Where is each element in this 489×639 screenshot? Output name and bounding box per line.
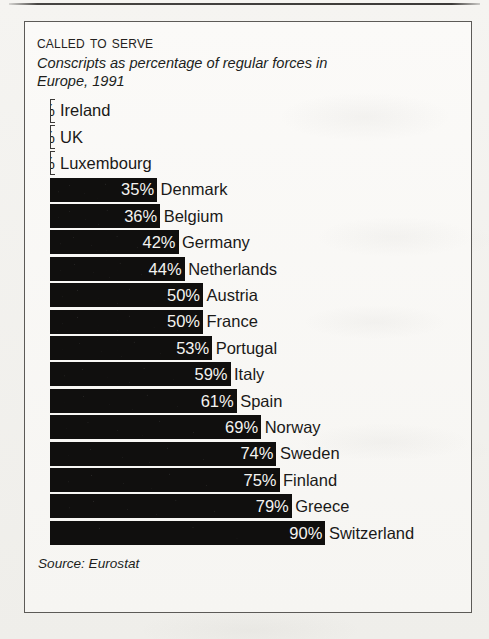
bar-value-label: 44% (149, 261, 185, 278)
bar-category-label: Norway (261, 419, 320, 436)
bar-category-label: Finland (280, 472, 338, 489)
bar-category-label: UK (55, 129, 83, 146)
bar-value-label: 0% (50, 129, 55, 146)
bar-category-label: Austria (203, 287, 258, 304)
bar-row: 79%Greece (50, 493, 471, 519)
bar-row: 42%Germany (50, 229, 471, 255)
chart-title: Called to Serve (37, 32, 471, 52)
bar-value-label: 59% (195, 366, 231, 383)
bar: 36% (50, 204, 160, 228)
bar-chart-plot: 0%Ireland0%UK0%Luxembourg35%Denmark36%Be… (50, 97, 471, 546)
bar-value-label: 35% (121, 181, 157, 198)
bar-row: 50%Austria (50, 282, 471, 308)
bar-category-label: Spain (237, 393, 283, 410)
bar-value-label: 69% (225, 419, 261, 436)
bar-row: 74%Sweden (50, 440, 471, 466)
bar-value-label: 50% (167, 287, 203, 304)
bar-category-label: Greece (292, 498, 350, 515)
bar-value-label: 0% (50, 155, 55, 172)
bar: 44% (50, 257, 185, 281)
bar-value-label: 42% (142, 234, 178, 251)
bar-row: 35%Denmark (50, 176, 471, 202)
chart-frame: Called to Serve Conscripts as percentage… (24, 21, 472, 613)
bar: 74% (50, 442, 276, 466)
bar: 0% (50, 151, 55, 175)
bar-row: 90%Switzerland (50, 520, 471, 546)
bar-value-label: 75% (243, 472, 279, 489)
bar-category-label: Netherlands (185, 261, 277, 278)
bar-row: 59%Italy (50, 361, 471, 387)
bar-category-label: Switzerland (325, 525, 414, 542)
bar: 0% (50, 99, 55, 123)
bar-row: 36%Belgium (50, 203, 471, 229)
chart-content: Called to Serve Conscripts as percentage… (25, 22, 471, 571)
bar-value-label: 50% (167, 313, 203, 330)
bar-row: 75%Finland (50, 467, 471, 493)
bar: 69% (50, 415, 261, 439)
bar-category-label: Belgium (160, 208, 223, 225)
bar: 75% (50, 468, 280, 492)
bar-category-label: Germany (179, 234, 250, 251)
bar-value-label: 53% (176, 340, 212, 357)
bar-value-label: 36% (124, 208, 160, 225)
bar: 0% (50, 125, 55, 149)
bar-row: 53%Portugal (50, 335, 471, 361)
bar-category-label: Denmark (157, 181, 227, 198)
bar-value-label: 90% (289, 525, 325, 542)
bar: 79% (50, 494, 292, 518)
bar-category-label: Italy (231, 366, 265, 383)
bar-value-label: 61% (201, 393, 237, 410)
page-top-rule (9, 3, 480, 5)
bar-row: 50%France (50, 308, 471, 334)
bar-row: 0%Ireland (50, 97, 471, 123)
bar-category-label: France (203, 313, 258, 330)
bar: 50% (50, 310, 203, 334)
bar: 42% (50, 230, 179, 254)
bar-value-label: 0% (50, 102, 55, 119)
bar-category-label: Sweden (276, 445, 339, 462)
bar: 90% (50, 521, 325, 545)
bar: 35% (50, 178, 157, 202)
chart-subtitle: Conscripts as percentage of regular forc… (37, 54, 337, 90)
bar-category-label: Luxembourg (55, 155, 152, 172)
bar-row: 0%Luxembourg (50, 150, 471, 176)
bar: 53% (50, 336, 212, 360)
bar-row: 44%Netherlands (50, 256, 471, 282)
bar-value-label: 79% (256, 498, 292, 515)
bar-value-label: 74% (240, 445, 276, 462)
bar: 50% (50, 283, 203, 307)
bar-category-label: Ireland (55, 102, 110, 119)
bar-category-label: Portugal (212, 340, 277, 357)
chart-source-note: Source: Eurostat (38, 556, 471, 571)
bar-row: 61%Spain (50, 388, 471, 414)
bar: 59% (50, 362, 231, 386)
bar-row: 0%UK (50, 124, 471, 150)
bar-row: 69%Norway (50, 414, 471, 440)
bar: 61% (50, 389, 237, 413)
